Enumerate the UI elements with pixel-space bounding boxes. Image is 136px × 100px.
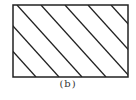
hatch-line (0, 5, 36, 77)
hatch-line (41, 5, 106, 77)
hatch-lines (0, 5, 136, 77)
hatch-line (111, 5, 136, 77)
hatch-line (88, 5, 136, 77)
rectangle-outline (13, 5, 128, 77)
hatch-line (0, 5, 13, 77)
figure-caption: (b) (0, 78, 136, 89)
